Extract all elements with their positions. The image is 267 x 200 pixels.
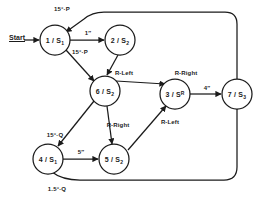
- edge-label-n6-to-n5: R-Right: [107, 122, 130, 128]
- node-label-n2-main: 2 / S: [111, 37, 126, 44]
- node-label-n2-sub: 2: [126, 39, 129, 45]
- node-label-n6-sub: 2: [111, 90, 114, 96]
- node-label-n3-sup: R: [181, 89, 185, 95]
- edge-n6-to-n3: [116, 81, 165, 84]
- state-diagram-canvas: Start 1 / S1 2 / S2 6 / S2 3 / SR 7 / S3…: [0, 0, 267, 200]
- node-label-n5-sub: 2: [120, 158, 123, 164]
- edge-n7-to-n4: [46, 109, 237, 180]
- node-label-n7-sub: 3: [243, 93, 246, 99]
- node-label-n5: 5 / S2: [105, 156, 123, 163]
- edge-n7-to-n1: [66, 12, 237, 79]
- node-label-n4-sub: 1: [54, 158, 57, 164]
- edge-label-n3-to-n7: 4″: [204, 85, 211, 91]
- start-label: Start: [9, 34, 25, 42]
- node-label-n6-main: 6 / S: [96, 88, 111, 95]
- node-label-n4: 4 / S1: [39, 156, 57, 163]
- node-label-n6: 6 / S2: [96, 88, 114, 95]
- edge-label-n4-to-n5: 5″: [78, 149, 85, 155]
- edge-n6-to-n4: [58, 101, 94, 146]
- edge-label-n7-to-n4: 1.5°·Q: [48, 186, 66, 192]
- edge-label-n5-to-n3: R-Left: [161, 119, 179, 125]
- node-label-n7: 7 / S3: [228, 91, 246, 98]
- edge-label-n1-to-n2: 1″: [85, 30, 92, 36]
- node-label-n3: 3 / SR: [165, 91, 184, 98]
- edge-label-n2-to-n6: R-Left: [115, 70, 133, 76]
- edge-label-n1-to-n6: 15°·P: [72, 49, 88, 55]
- node-label-n5-main: 5 / S: [105, 156, 120, 163]
- node-label-n1-main: 1 / S: [46, 37, 61, 44]
- edge-label-n6-to-n4: 15°·Q: [47, 132, 64, 138]
- node-label-n1-sub: 1: [61, 39, 64, 45]
- edge-label-n7-to-n1: 15°·P: [54, 6, 70, 12]
- edge-n5-to-n3: [128, 106, 166, 150]
- node-label-n3-main: 3 / S: [165, 91, 180, 98]
- node-label-n1: 1 / S1: [46, 37, 64, 44]
- diagram-svg: [0, 0, 267, 200]
- node-label-n4-main: 4 / S: [39, 156, 54, 163]
- node-label-n7-main: 7 / S: [228, 91, 243, 98]
- edge-label-n6-to-n3: R-Right: [175, 70, 198, 76]
- node-label-n2: 2 / S2: [111, 37, 129, 44]
